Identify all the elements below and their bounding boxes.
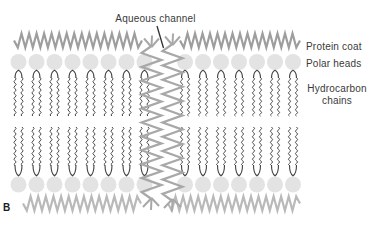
phospholipid-bottom [11,127,27,193]
phospholipid-bottom [285,127,301,193]
protein-coat-bottom-right-zigzag-icon [168,197,300,211]
hydrocarbon-chain-wavy-line-icon [86,78,88,117]
phospholipid-top [119,54,135,116]
hydrocarbon-chain-wavy-line-icon [111,78,113,117]
chain-fork [218,165,225,176]
hydrocarbon-chain-wavy-line-icon [50,78,52,117]
phospholipid-top [267,54,283,116]
polar-head-circle-icon [65,177,81,193]
hydrocarbon-chain-wavy-line-icon [75,127,77,166]
chain-fork [200,165,207,176]
chain-fork [33,70,40,78]
phospholipid-top [213,54,229,116]
polar-head-circle-icon [101,54,117,70]
phospholipid-top [83,54,99,116]
polar-head-circle-icon [83,54,99,70]
polar-head-circle-icon [29,54,45,70]
chain-fork [254,165,261,176]
hydrocarbon-chain-wavy-line-icon [241,127,243,166]
hydrocarbon-chain-wavy-line-icon [205,127,207,166]
hydrocarbon-chain-wavy-line-icon [104,78,106,117]
chain-fork [15,165,22,176]
hydrocarbon-chain-wavy-line-icon [93,127,95,166]
chain-fork [290,70,297,78]
polar-head-circle-icon [11,177,27,193]
hydrocarbon-chain-wavy-line-icon [187,78,189,117]
channel-corner-spike-icon [172,199,173,212]
chain-fork [200,70,207,78]
hydrocarbon-chain-wavy-line-icon [223,127,225,166]
hydrocarbon-chain-wavy-line-icon [270,127,272,166]
polar-head-circle-icon [231,177,247,193]
polar-head-circle-icon [83,177,99,193]
label-polar-heads: Polar heads [306,58,362,69]
phospholipid-bottom [213,127,229,193]
hydrocarbon-chain-wavy-line-icon [216,78,218,117]
hydrocarbon-chain-wavy-line-icon [75,78,77,117]
hydrocarbon-chain-wavy-line-icon [234,78,236,117]
hydrocarbon-chain-wavy-line-icon [122,78,124,117]
protein-coat-bottom-left-zigzag-icon [23,197,141,211]
polar-head-circle-icon [267,54,283,70]
chain-fork [87,70,94,78]
hydrocarbon-chain-wavy-line-icon [39,78,41,117]
protein-coat-top-left-zigzag-icon [14,34,142,48]
hydrocarbon-chain-wavy-line-icon [259,127,261,166]
hydrocarbon-chain-wavy-line-icon [252,78,254,117]
hydrocarbon-chain-wavy-line-icon [180,78,182,117]
polar-head-circle-icon [213,177,229,193]
phospholipid-top [249,54,265,116]
polar-head-circle-icon [65,54,81,70]
phospholipid-top [231,54,247,116]
channel-corner-spike-icon [151,198,152,210]
channel-corner-spike-icon [152,198,160,206]
hydrocarbon-chain-wavy-line-icon [21,78,23,117]
polar-head-circle-icon [101,177,117,193]
hydrocarbon-chain-wavy-line-icon [216,127,218,166]
hydrocarbon-chain-wavy-line-icon [140,78,142,117]
hydrocarbon-chain-wavy-line-icon [187,127,189,166]
polar-head-circle-icon [213,54,229,70]
membrane-diagram: Aqueous channel Protein coat Polar heads… [0,0,375,228]
hydrocarbon-chain-wavy-line-icon [32,78,34,117]
phospholipid-bottom [249,127,265,193]
hydrocarbon-chain-wavy-line-icon [57,127,59,166]
hydrocarbon-chain-wavy-line-icon [252,127,254,166]
hydrocarbon-chain-wavy-line-icon [32,127,34,166]
chain-fork [290,165,297,176]
hydrocarbon-chain-wavy-line-icon [198,78,200,117]
hydrocarbon-chain-wavy-line-icon [111,127,113,166]
hydrocarbon-chain-wavy-line-icon [241,78,243,117]
phospholipid-top [29,54,45,116]
label-hydrocarbon-chains-line2: chains [322,95,352,106]
polar-head-circle-icon [267,177,283,193]
aqueous-channel-pointer-line [157,26,164,48]
phospholipid-top [65,54,81,116]
hydrocarbon-chain-wavy-line-icon [259,78,261,117]
polar-head-circle-icon [119,177,135,193]
chain-fork [254,70,261,78]
hydrocarbon-chain-wavy-line-icon [21,127,23,166]
hydrocarbon-chain-wavy-line-icon [57,78,59,117]
hydrocarbon-chain-wavy-line-icon [39,127,41,166]
polar-head-circle-icon [249,54,265,70]
hydrocarbon-chain-wavy-line-icon [288,127,290,166]
phospholipid-bottom [267,127,283,193]
polar-head-circle-icon [119,54,135,70]
polar-head-circle-icon [29,177,45,193]
phospholipid-top [47,54,63,116]
chain-fork [272,70,279,78]
phospholipid-bottom [101,127,117,193]
hydrocarbon-chain-wavy-line-icon [205,78,207,117]
hydrocarbon-chain-wavy-line-icon [104,127,106,166]
polar-head-circle-icon [231,54,247,70]
chain-fork [33,165,40,176]
chain-fork [105,70,112,78]
polar-head-circle-icon [47,177,63,193]
hydrocarbon-chain-wavy-line-icon [14,78,16,117]
hydrocarbon-chain-wavy-line-icon [14,127,16,166]
polar-head-circle-icon [195,54,211,70]
hydrocarbon-chain-wavy-line-icon [198,127,200,166]
figure-panel: Aqueous channel Protein coat Polar heads… [0,0,375,228]
phospholipid-top [285,54,301,116]
